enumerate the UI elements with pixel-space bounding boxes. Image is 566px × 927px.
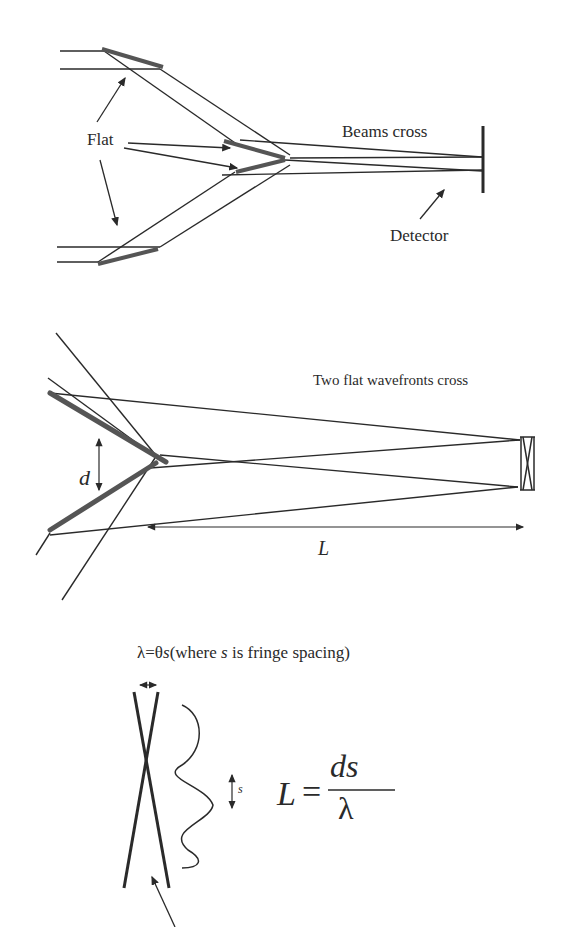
detector-label: Detector bbox=[390, 226, 449, 246]
fringe-relation: λ=θs(where s is fringe spacing) bbox=[137, 643, 350, 663]
lambda-symbol: λ bbox=[137, 643, 145, 662]
beams-cross-label: Beams cross bbox=[342, 122, 427, 142]
fringe-diagram bbox=[124, 685, 232, 927]
wavefronts-caption: Two flat wavefronts cross bbox=[313, 372, 468, 389]
far-mirror bbox=[520, 437, 535, 490]
formula-denominator: λ bbox=[338, 790, 354, 827]
panel-1-diagram bbox=[0, 0, 566, 300]
flat-mirrors bbox=[98, 49, 285, 264]
d-label: d bbox=[79, 465, 90, 491]
L-label: L bbox=[318, 537, 329, 560]
flat-label: Flat bbox=[87, 130, 113, 150]
formula-L: L bbox=[277, 775, 296, 813]
formula-equals: = bbox=[302, 773, 321, 811]
tilted-mirrors bbox=[50, 393, 166, 530]
formula-numerator: ds bbox=[330, 748, 358, 785]
s-label: s bbox=[238, 782, 243, 797]
